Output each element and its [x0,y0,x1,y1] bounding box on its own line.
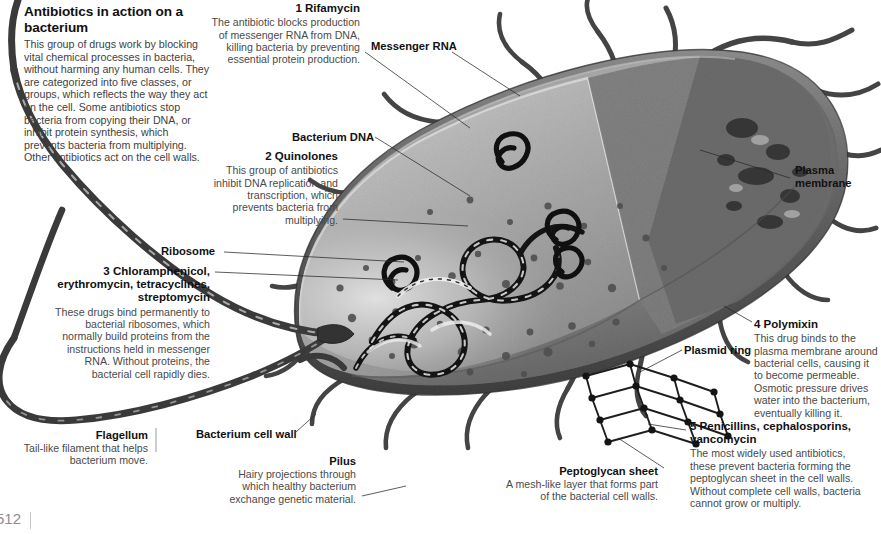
label-bacterium-dna: Bacterium DNA [292,131,374,144]
page-title: Antibiotics in action on a bacterium [24,4,210,36]
messenger-rna [368,279,490,352]
caption-peptoglycan-sheet: Peptoglycan sheet A mesh-like layer that… [498,465,658,503]
callout-2-title: 2 Quinolones [206,150,338,163]
callout-5-name: Penicillins, cephalosporins, vancomycin [690,420,851,445]
callout-5-title: 5 Penicillins, cephalosporins, vancomyci… [690,420,870,446]
caption-peptoglycan-title: Peptoglycan sheet [498,465,658,478]
callout-3-chloramphenicol: 3 Chloramphenicol, erythromycin, tetracy… [46,265,210,380]
callout-5-penicillins: 5 Penicillins, cephalosporins, vancomyci… [690,420,870,509]
caption-flagellum-body: Tail-like filament that helps bacterium … [12,442,148,467]
callout-5-number: 5 [690,420,696,432]
ribosome-granules [336,197,667,377]
caption-flagellum-title: Flagellum [12,429,148,442]
caption-flagellum: Flagellum Tail-like filament that helps … [12,429,148,467]
label-plasma-membrane: Plasma membrane [795,164,873,190]
illustration-page: Antibiotics in action on a bacterium Thi… [0,0,881,534]
intro-body: This group of drugs work by blocking vit… [24,38,210,164]
callout-2-number: 2 [265,150,271,162]
callout-1-rifamycin: 1 Rifamycin The antibiotic blocks produc… [202,2,360,66]
callout-2-body: This group of antibiotics inhibit DNA re… [206,164,338,226]
callout-4-number: 4 [754,318,760,330]
callout-3-number: 3 [103,265,109,277]
callout-1-number: 1 [295,2,301,14]
intro-text-block: Antibiotics in action on a bacterium Thi… [24,4,210,164]
callout-2-quinolones: 2 Quinolones This group of antibiotics i… [206,150,338,226]
callout-4-polymixin: 4 Polymixin This drug binds to the plasm… [754,318,878,419]
label-plasmid-ring: Plasmid ring [684,344,751,357]
cell-contents [336,134,667,377]
label-messenger-rna: Messenger RNA [371,40,457,53]
caption-peptoglycan-body: A mesh-like layer that forms part of the… [498,478,658,503]
caption-pilus: Pilus Hairy projections through which he… [216,455,356,505]
caption-pilus-title: Pilus [216,455,356,468]
callout-2-name: Quinolones [275,150,338,162]
callout-1-name: Rifamycin [305,2,360,14]
callout-3-body: These drugs bind permanently to bacteria… [46,306,210,380]
callout-1-title: 1 Rifamycin [202,2,360,15]
callout-3-name: Chloramphenicol, erythromycin, tetracycl… [57,265,210,303]
callout-1-body: The antibiotic blocks production of mess… [202,16,360,66]
plasmid-rings [384,134,582,290]
label-ribosome: Ribosome [161,245,215,258]
callout-4-body: This drug binds to the plasma membrane a… [754,332,878,419]
page-folio: 512 [0,510,21,527]
folio-divider [30,512,31,529]
callout-5-body: The most widely used antibiotics, these … [690,447,870,509]
callout-3-title: 3 Chloramphenicol, erythromycin, tetracy… [46,265,210,305]
callout-4-title: 4 Polymixin [754,318,878,331]
bacterium-dna [356,227,582,375]
caption-pilus-body: Hairy projections through which healthy … [216,468,356,505]
label-bacterium-cell-wall: Bacterium cell wall [196,428,297,441]
callout-4-name: Polymixin [764,318,818,330]
